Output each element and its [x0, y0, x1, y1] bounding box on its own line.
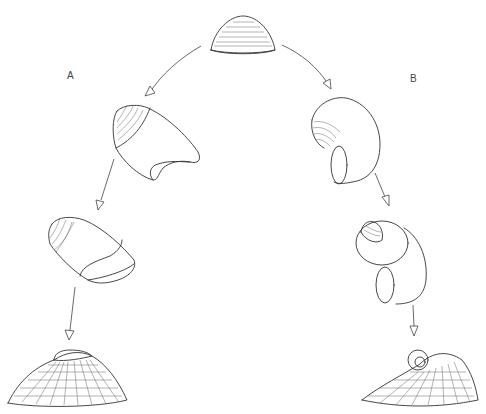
arrow-ancestor-to-b1: [282, 45, 331, 89]
arrow-ancestor-to-a1: [145, 46, 201, 96]
shell-ancestor: [211, 16, 275, 54]
arrow-a2-to-a3: [65, 287, 75, 340]
shell-b3: [362, 350, 478, 406]
diagram-drawing: [0, 0, 486, 414]
shell-a3: [8, 350, 127, 406]
arrow-b2-to-b3: [410, 305, 418, 336]
arrow-b1-to-b2: [375, 173, 389, 206]
arrow-a1-to-a2: [96, 159, 114, 210]
shell-a2: [49, 217, 135, 283]
shell-a1: [113, 105, 199, 180]
shell-b2: [356, 221, 426, 304]
shell-b1: [312, 98, 380, 184]
diagram-canvas: A B: [0, 0, 486, 414]
